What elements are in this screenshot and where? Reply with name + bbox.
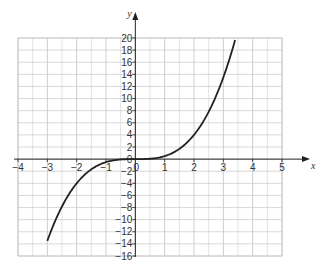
- y-tick-label: −4: [121, 178, 133, 189]
- x-tick-label: 5: [279, 162, 285, 173]
- x-tick-label: 2: [191, 162, 197, 173]
- y-tick-label: 8: [127, 105, 133, 116]
- x-tick-label: −4: [12, 162, 24, 173]
- y-tick-label: 2: [127, 142, 133, 153]
- y-tick-label: −10: [115, 214, 132, 225]
- x-tick-label: 3: [221, 162, 227, 173]
- y-tick-label: 14: [121, 69, 133, 80]
- x-tick-label: 4: [250, 162, 256, 173]
- axes: [14, 12, 310, 257]
- grid-lines: [18, 38, 282, 256]
- y-tick-label: 10: [121, 93, 133, 104]
- y-tick-label: −8: [121, 202, 133, 213]
- y-tick-label: 4: [127, 129, 133, 140]
- x-axis-label: x: [310, 160, 316, 171]
- y-tick-label: −14: [115, 238, 132, 249]
- y-tick-label: 20: [121, 33, 133, 44]
- y-tick-label: −2: [121, 166, 133, 177]
- y-tick-label: −6: [121, 190, 133, 201]
- y-tick-label: 18: [121, 45, 133, 56]
- y-tick-label: 12: [121, 81, 133, 92]
- x-tick-label: −3: [42, 162, 54, 173]
- data-curve: [47, 40, 235, 241]
- x-tick-label: −2: [71, 162, 83, 173]
- y-tick-label: 16: [121, 57, 133, 68]
- x-tick-label: 1: [162, 162, 168, 173]
- chart: −4−3−2−1123450 −16−14−12−10−8−6−4−202468…: [0, 0, 323, 271]
- y-tick-label: 6: [127, 117, 133, 128]
- y-axis-label: y: [126, 8, 132, 19]
- y-tick-label: −16: [115, 251, 132, 262]
- y-tick-label: −12: [115, 226, 132, 237]
